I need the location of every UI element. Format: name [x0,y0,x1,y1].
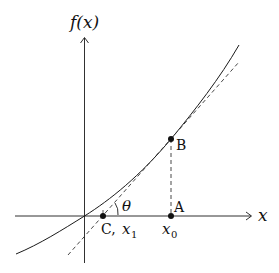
x0-variable: x [162,220,171,238]
x0-subscript: 0 [171,229,177,240]
point-c-label: C, x 1 [101,220,137,240]
y-axis-label: f(x) [68,12,99,32]
x0-label: x 0 [162,220,177,240]
newton-method-diagram: f(x) x B A θ C, x 1 x 0 [0,0,279,273]
x-axis-label: x [258,205,268,225]
angle-arc [115,203,118,215]
y-axis [81,38,89,264]
point-c-name: C, [101,221,116,237]
x1-variable: x [122,220,131,238]
point-b [168,136,174,142]
angle-label: θ [122,197,131,215]
x-axis [15,212,252,220]
point-c [100,213,106,219]
point-b-label: B [176,137,186,153]
tangent-line [68,62,239,255]
x1-subscript: 1 [131,229,137,240]
point-a-label: A [173,199,185,215]
